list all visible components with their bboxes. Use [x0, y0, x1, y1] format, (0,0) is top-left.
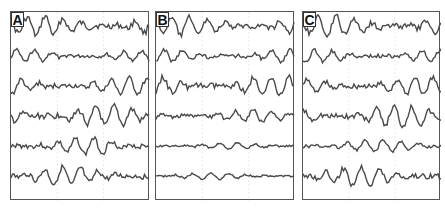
panel-b: B	[155, 11, 294, 200]
panel-a: A	[10, 11, 149, 200]
panel-label-a: A	[11, 12, 24, 27]
panel-label-c: C	[303, 12, 316, 27]
trace-plot-a	[11, 12, 150, 201]
panel-label-b: B	[156, 12, 169, 27]
panel-c: C	[302, 11, 440, 200]
trace-plot-b	[156, 12, 295, 201]
trace-plot-c	[303, 12, 441, 201]
